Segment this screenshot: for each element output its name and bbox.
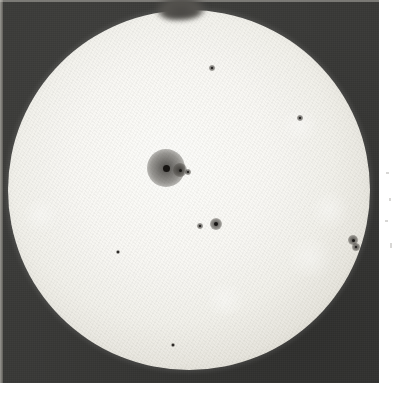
- upper-disk-speck: [209, 65, 215, 71]
- photosphere-granulation: [8, 10, 370, 370]
- faculae-lower-center: [200, 285, 250, 315]
- umbra: [163, 165, 170, 172]
- faculae-lower-right: [282, 239, 338, 277]
- faculae-left-limb: [23, 195, 57, 235]
- margin-speck-2: [389, 198, 391, 201]
- photographic-plate: [0, 0, 379, 383]
- umbra: [299, 117, 301, 119]
- umbra: [214, 222, 218, 226]
- margin-speck-3: [385, 220, 388, 222]
- umbra: [352, 239, 355, 242]
- margin-speck-1: [386, 172, 389, 174]
- bottom-margin: [0, 383, 400, 398]
- mid-disk-speck: [197, 223, 203, 229]
- umbra: [179, 169, 182, 172]
- limb-darkening: [8, 10, 370, 370]
- satellite-speck: [185, 169, 191, 175]
- solar-photograph-page: Photograph of the solar disk showing sun…: [0, 0, 400, 398]
- mid-disk-spot: [210, 218, 222, 230]
- plate-left-edge: [0, 0, 3, 383]
- limb-speck: [352, 243, 360, 251]
- upper-right-speck: [297, 115, 303, 121]
- faculae-right-limb: [311, 188, 349, 232]
- umbra: [211, 67, 213, 69]
- umbra: [355, 246, 357, 248]
- solar-disk: [8, 10, 370, 370]
- margin-speck-4: [390, 243, 392, 248]
- low-disk-speck: [171, 343, 175, 347]
- umbra: [117, 251, 119, 253]
- umbra: [187, 171, 189, 173]
- low-left-speck: [116, 250, 120, 254]
- umbra: [199, 225, 201, 227]
- umbra: [172, 344, 174, 346]
